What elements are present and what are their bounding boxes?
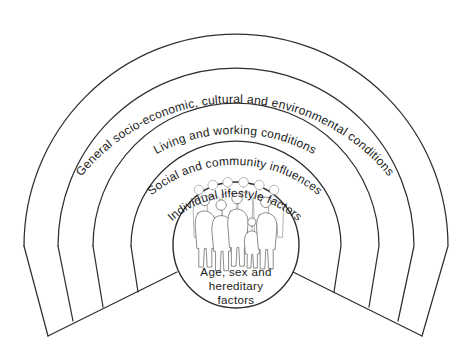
arc-path-3-left-leg — [93, 246, 103, 307]
arc-path-1-left-leg — [24, 246, 48, 336]
arc-path-2-left-leg — [58, 246, 73, 321]
arc-path-4-left-leg — [131, 246, 138, 292]
base-line-left — [48, 272, 177, 336]
band-label-2: Living and working conditions — [151, 123, 319, 157]
core-label-line-3: factors — [218, 293, 255, 306]
rainbow-diagram: General socio-economic, cultural and env… — [0, 0, 461, 361]
base-line-right — [293, 272, 422, 336]
core-label-line-2: hereditary — [209, 279, 264, 292]
diagram-canvas: General socio-economic, cultural and env… — [0, 0, 461, 361]
core-label-line-1: Age, sex and — [200, 265, 271, 278]
